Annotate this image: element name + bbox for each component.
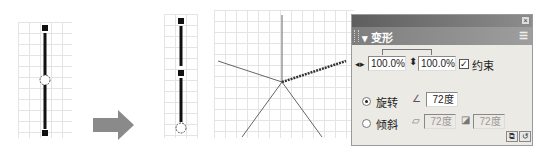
skew-horizontal-input[interactable]: 72度	[424, 114, 456, 129]
rotate-label: 旋转	[376, 94, 398, 110]
skew-label: 倾斜	[376, 116, 398, 132]
skew-vertical-input[interactable]: 72度	[473, 114, 505, 129]
rotate-angle-input[interactable]: 72度	[426, 92, 458, 107]
skew-vertical-icon: ◪	[461, 114, 470, 125]
line-after	[164, 14, 204, 140]
rotate-angle-icon: ∠	[412, 93, 421, 104]
close-icon[interactable]: ×	[521, 16, 530, 25]
transform-panel: × ▾ 变形 ☰ ◂▸ 100.0% ⬍ 100.0% ✓ 约束 旋转 ∠ 72…	[351, 14, 533, 146]
constrain-checkbox[interactable]: ✓	[459, 59, 469, 69]
horizontal-scale-icon: ◂▸	[355, 59, 365, 69]
panel-titlebar[interactable]: ×	[352, 15, 532, 27]
rotated-star-figure	[214, 10, 354, 140]
height-scale-input[interactable]: 100.0%	[418, 56, 456, 71]
panel-title[interactable]: ▾ 变形	[362, 29, 393, 45]
vertical-scale-icon: ⬍	[409, 56, 417, 67]
constrain-label: 约束	[472, 57, 494, 73]
rotate-radio[interactable]	[362, 97, 371, 106]
gripper-icon[interactable]	[354, 30, 359, 42]
options-menu-icon[interactable]: ☰	[519, 30, 528, 41]
reset-transform-icon[interactable]: ↺	[519, 131, 531, 142]
line-before	[18, 22, 78, 142]
constrain-bracket	[382, 49, 432, 55]
panel-header[interactable]: ▾ 变形 ☰	[352, 27, 532, 45]
skew-radio[interactable]	[362, 119, 371, 128]
copy-and-apply-transform-icon[interactable]: ⧉	[506, 131, 518, 142]
right-arrow-icon	[92, 110, 136, 140]
width-scale-input[interactable]: 100.0%	[368, 56, 406, 71]
skew-horizontal-icon: ▱	[412, 115, 420, 126]
